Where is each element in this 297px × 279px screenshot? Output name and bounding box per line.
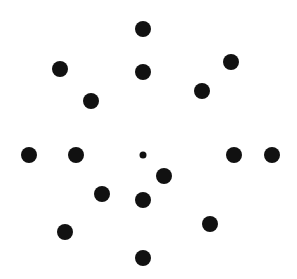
dot: [83, 93, 99, 109]
dot: [21, 147, 37, 163]
dot: [135, 250, 151, 266]
dot: [135, 192, 151, 208]
dot-pattern: [0, 0, 297, 279]
dot-pattern-canvas: [0, 0, 297, 279]
dot: [57, 224, 73, 240]
dot: [52, 61, 68, 77]
dot: [156, 168, 172, 184]
dot: [135, 21, 151, 37]
dot: [202, 216, 218, 232]
center-dot: [140, 152, 147, 159]
dot: [264, 147, 280, 163]
dot: [223, 54, 239, 70]
dot: [226, 147, 242, 163]
dot: [68, 147, 84, 163]
dot: [135, 64, 151, 80]
dot: [194, 83, 210, 99]
dot: [94, 186, 110, 202]
